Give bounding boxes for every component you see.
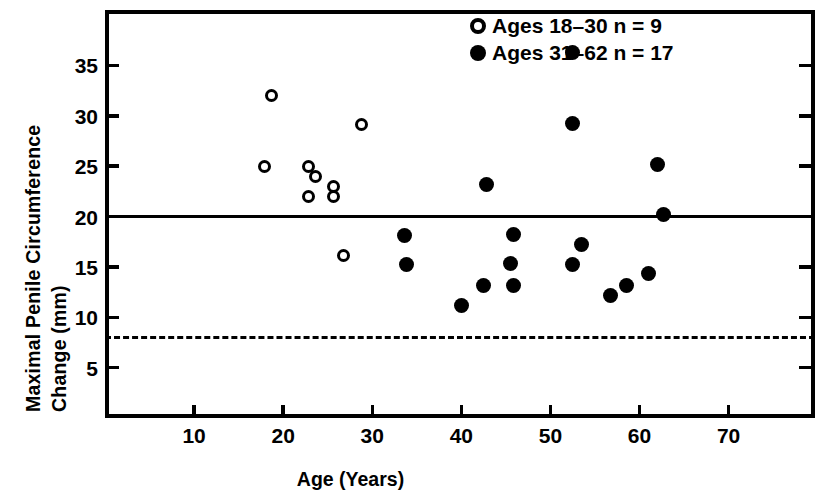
x-tick-label-30: 30 [342,425,402,446]
y-tick-25 [109,164,119,168]
plot-area [105,10,815,418]
data-point-series-0-3 [309,170,322,183]
y-tick-label-15: 15 [56,257,98,278]
data-point-series-1-7 [574,237,589,252]
data-point-series-1-11 [641,266,656,281]
y-tick-35 [109,64,119,68]
data-point-series-1-15 [603,288,618,303]
y-tick-15 [109,265,119,269]
y-tick-right-30 [799,114,811,118]
data-point-series-1-1 [565,116,580,131]
x-tick-50 [549,405,553,416]
x-tick-20 [281,405,285,416]
data-point-series-0-1 [258,160,271,173]
y-tick-label-10: 10 [56,307,98,328]
legend-item-label: Ages 18–30 n = 9 [492,14,662,38]
data-point-series-1-12 [476,278,491,293]
y-tick-5 [109,366,119,370]
filled-circle-icon [470,45,486,61]
y-tick-label-35: 35 [56,55,98,76]
x-tick-label-10: 10 [164,425,224,446]
x-tick-10 [192,405,196,416]
data-point-series-0-6 [327,190,340,203]
data-point-series-1-9 [503,256,518,271]
data-point-series-1-3 [650,157,665,172]
x-tick-label-60: 60 [610,425,670,446]
y-tick-right-5 [799,366,811,370]
y-tick-10 [109,316,119,320]
x-axis-title: Age (Years) [0,468,815,491]
legend-item-0: Ages 18–30 n = 9 [470,12,805,39]
legend-item-label: Ages 31–62 n = 17 [492,41,674,65]
x-tick-label-50: 50 [520,425,580,446]
data-point-series-1-6 [506,227,521,242]
y-tick-label-20: 20 [56,207,98,228]
y-tick-20 [109,215,119,219]
y-tick-label-25: 25 [56,156,98,177]
y-tick-right-15 [799,265,811,269]
y-axis-tick-labels: 5101520253035 [48,0,98,420]
legend-item-1: Ages 31–62 n = 17 [470,39,805,66]
x-axis-title-text: Age (Years) [297,468,404,490]
x-tick-label-20: 20 [253,425,313,446]
x-tick-30 [371,405,375,416]
scatter-plot-figure: Maximal Penile Circumference Change (mm)… [0,0,815,493]
reference-line-solid [105,215,815,219]
data-point-series-0-8 [337,249,350,262]
data-point-series-1-13 [506,278,521,293]
legend: Ages 18–30 n = 9Ages 31–62 n = 17 [470,12,805,66]
data-point-series-1-10 [565,257,580,272]
data-point-series-0-4 [302,190,315,203]
data-point-series-1-14 [619,278,634,293]
data-point-series-1-16 [454,298,469,313]
data-point-series-1-4 [656,207,671,222]
data-point-series-1-5 [397,228,412,243]
y-tick-label-30: 30 [56,106,98,127]
x-tick-60 [638,405,642,416]
y-tick-right-25 [799,164,811,168]
y-tick-right-10 [799,316,811,320]
data-point-series-1-2 [479,177,494,192]
data-point-series-0-7 [355,118,368,131]
y-tick-30 [109,114,119,118]
data-point-series-1-8 [399,257,414,272]
x-tick-70 [727,405,731,416]
y-tick-right-20 [799,215,811,219]
x-tick-40 [460,405,464,416]
reference-line-dashed [105,336,815,339]
x-tick-label-70: 70 [699,425,759,446]
y-axis-title-line-1: Maximal Penile Circumference [22,125,45,412]
data-point-series-0-0 [265,89,278,102]
x-tick-label-40: 40 [431,425,491,446]
y-tick-label-5: 5 [56,358,98,379]
open-circle-icon [470,18,486,34]
